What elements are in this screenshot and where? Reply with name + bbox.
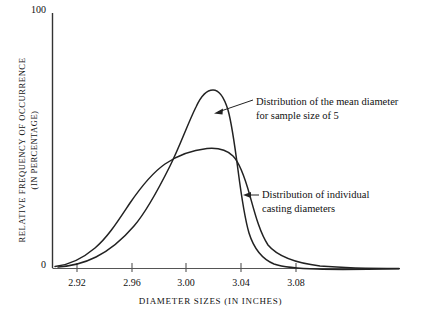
annotation-individual-castings: Distribution of individual casting diame… (262, 188, 369, 215)
y-axis-title: RELATIVE FREQUENCY OF OCCURRENCE (IN PER… (16, 34, 40, 266)
x-axis-title: DIAMETER SIZES (IN INCHES) (0, 296, 421, 306)
x-tick-label-1: 2.92 (57, 277, 97, 288)
annotation-arrow-mean (214, 100, 253, 115)
annotation-individual-castings-line1: Distribution of individual (262, 188, 369, 202)
annotation-mean-diameter-line1: Distribution of the mean diameter (256, 95, 398, 109)
y-axis-title-line1: RELATIVE FREQUENCY OF OCCURRENCE (16, 34, 28, 266)
x-tick-label-3: 3.00 (166, 277, 206, 288)
x-tick-label-5: 3.08 (276, 277, 316, 288)
y-axis-title-line2: (IN PERCENTAGE) (28, 34, 40, 266)
chart-canvas (0, 0, 421, 317)
x-tick-marks (77, 263, 296, 272)
x-tick-label-2: 2.96 (112, 277, 152, 288)
annotation-mean-diameter: Distribution of the mean diameter for sa… (256, 95, 398, 122)
annotation-individual-castings-line2: casting diameters (262, 202, 369, 216)
annotation-arrow-individual (243, 192, 259, 198)
annotation-mean-diameter-line2: for sample size of 5 (256, 109, 398, 123)
x-tick-label-4: 3.04 (221, 277, 261, 288)
y-tick-label-0: 0 (30, 259, 46, 270)
chart-figure: RELATIVE FREQUENCY OF OCCURRENCE (IN PER… (0, 0, 421, 317)
y-tick-label-100: 100 (24, 4, 46, 15)
